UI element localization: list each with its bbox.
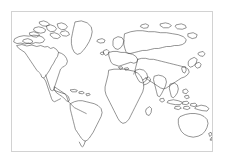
landmass-central-america — [55, 87, 70, 102]
landmass-africa — [105, 69, 151, 123]
landmass-new-guinea — [195, 105, 209, 111]
landmass-new-zealand — [209, 132, 212, 140]
landmass-sri-lanka — [160, 98, 164, 102]
map-frame-border — [11, 11, 213, 152]
landmass-australia — [178, 114, 208, 138]
landmass-india — [154, 75, 167, 97]
landmass-korea — [182, 67, 186, 73]
landmass-caribbean-islands — [70, 89, 90, 95]
landmass-philippines — [183, 89, 189, 99]
world-map-canvas — [12, 12, 212, 151]
landmass-indonesia — [167, 100, 197, 110]
landmass-siberia — [124, 23, 197, 54]
landmass-british-isles — [101, 49, 109, 55]
world-map-figure — [0, 0, 226, 164]
landmass-greenland — [71, 21, 92, 55]
landmass-madagascar — [146, 107, 152, 116]
landmass-arabian-peninsula — [136, 69, 148, 83]
landmass-south-america — [70, 101, 102, 147]
landmass-canadian-arctic-archipelago — [23, 21, 70, 44]
landmass-japan — [188, 51, 205, 68]
landmass-europe — [109, 51, 138, 66]
landmass-scandinavia — [113, 37, 124, 50]
landmass-asia — [134, 58, 189, 89]
landmass-iceland — [97, 39, 105, 43]
landmass-north-america — [14, 35, 86, 113]
